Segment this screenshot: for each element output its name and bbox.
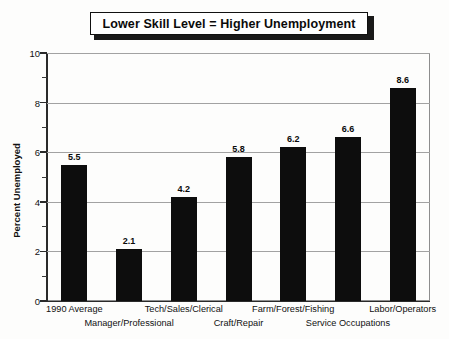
bar-value-label: 5.8 (232, 144, 245, 154)
y-axis-tick-minor (42, 127, 47, 128)
y-axis-tick-major (40, 52, 47, 54)
y-axis-tick-major (40, 251, 47, 253)
chart-title-box: Lower Skill Level = Higher Unemployment (90, 12, 368, 35)
x-axis-category-label: Craft/Repair (214, 318, 264, 328)
y-axis-tick-major (40, 102, 47, 104)
x-axis-category-label: Labor/Operators (369, 304, 436, 314)
y-axis-tick-minor (42, 177, 47, 178)
y-axis-tick-major (40, 151, 47, 153)
bar (390, 88, 416, 301)
x-axis-category-label: 1990 Average (46, 304, 103, 314)
bar (171, 197, 197, 301)
gridline (47, 103, 430, 104)
x-axis-category-label: Tech/Sales/Clerical (145, 304, 223, 314)
x-axis-category-label: Service Occupations (306, 318, 390, 328)
x-axis-category-label: Manager/Professional (84, 318, 173, 328)
x-axis-category-label: Farm/Forest/Fishing (252, 304, 334, 314)
gridline (47, 53, 430, 54)
y-axis-line (46, 53, 48, 302)
chart-page: Lower Skill Level = Higher Unemployment … (0, 0, 449, 339)
y-axis-tick-major (40, 201, 47, 203)
bar-value-label: 6.2 (287, 134, 300, 144)
y-axis-tick-minor (42, 226, 47, 227)
bar (116, 249, 142, 301)
y-axis-tick-label: 8 (4, 97, 40, 108)
bar (61, 165, 87, 301)
y-axis-tick-minor (42, 77, 47, 78)
bar (280, 147, 306, 301)
bar-value-label: 6.6 (342, 124, 355, 134)
y-axis-tick-label: 0 (4, 296, 40, 307)
y-axis-tick-label: 2 (4, 246, 40, 257)
chart-title: Lower Skill Level = Higher Unemployment (103, 17, 356, 31)
bar (226, 157, 252, 301)
y-axis-tick-major (40, 300, 47, 302)
y-axis-tick-label: 6 (4, 147, 40, 158)
y-axis-tick-label: 4 (4, 196, 40, 207)
bar (335, 137, 361, 301)
bar-value-label: 5.5 (68, 152, 81, 162)
y-axis-tick-minor (42, 276, 47, 277)
y-axis-tick-label: 10 (4, 48, 40, 59)
bar-value-label: 2.1 (123, 236, 136, 246)
bar-value-label: 4.2 (178, 184, 191, 194)
bar-value-label: 8.6 (396, 75, 409, 85)
